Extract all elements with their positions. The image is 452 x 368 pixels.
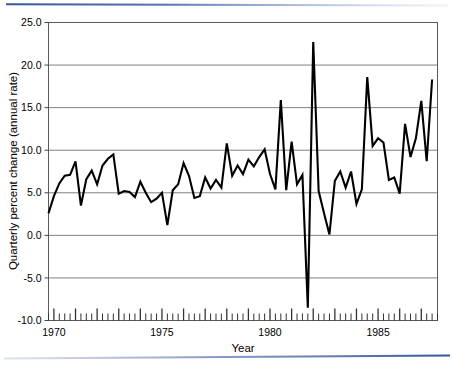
- y-tick-label: 5.0: [27, 186, 42, 198]
- y-tick-label: 15.0: [21, 101, 42, 113]
- y-tick-label: 10.0: [21, 144, 42, 156]
- y-axis: 25.020.015.010.05.00.0-5.0-10.0: [18, 16, 49, 326]
- y-tick-label: 20.0: [21, 59, 42, 71]
- data-series-line: [49, 42, 433, 308]
- y-tick-label: 25.0: [21, 16, 42, 28]
- x-tick-label: 1970: [42, 326, 66, 338]
- x-tick-label: 1975: [150, 326, 174, 338]
- x-tick-label: 1985: [366, 326, 390, 338]
- y-tick-label: 0.0: [27, 229, 42, 241]
- x-axis-ticks: [49, 309, 438, 321]
- x-axis-labels: 1970197519801985: [42, 326, 390, 338]
- y-tick-label: -5.0: [23, 272, 41, 284]
- y-tick-label: -10.0: [18, 314, 42, 326]
- x-tick-label: 1980: [258, 326, 282, 338]
- y-axis-title: Quarterly percent change (annual rate): [7, 72, 19, 270]
- line-chart: 25.020.015.010.05.00.0-5.0-10.0 19701975…: [0, 0, 452, 368]
- x-axis-title: Year: [231, 342, 254, 354]
- figure-container: 25.020.015.010.05.00.0-5.0-10.0 19701975…: [0, 0, 452, 368]
